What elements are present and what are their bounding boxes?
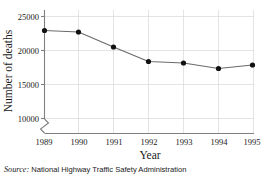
- source-label: Source:: [4, 165, 29, 174]
- x-tick-label-1992: 1992: [141, 137, 158, 147]
- y-axis-title: Number of deaths: [2, 29, 14, 112]
- data-point-1995: [250, 62, 255, 67]
- x-tick-label-1995: 1995: [244, 137, 261, 147]
- y-tick-label-20000: 20000: [18, 46, 39, 56]
- line-chart-plot: 25000 20000 15000 10000 1989 1990 1991 1…: [0, 0, 261, 181]
- x-tick-labels: 1989 1990 1991 1992 1993 1994 1995: [36, 137, 261, 147]
- data-point-1990: [76, 29, 81, 34]
- source-value: National Highway Traffic Safety Administ…: [31, 165, 186, 174]
- x-tick-label-1994: 1994: [211, 137, 229, 147]
- plot-background: [44, 10, 254, 133]
- y-tick-label-25000: 25000: [18, 12, 39, 22]
- x-tick-label-1993: 1993: [176, 137, 193, 147]
- data-point-1993: [181, 60, 186, 65]
- y-tick-label-15000: 15000: [18, 80, 39, 90]
- data-point-1991: [111, 44, 116, 49]
- data-point-1989: [42, 28, 47, 33]
- data-point-1994: [216, 66, 221, 71]
- x-tick-label-1991: 1991: [106, 137, 123, 147]
- data-point-1992: [146, 59, 151, 64]
- x-axis-title: Year: [139, 149, 160, 161]
- y-tick-labels: 25000 20000 15000 10000: [18, 12, 39, 124]
- chart-figure: 25000 20000 15000 10000 1989 1990 1991 1…: [0, 0, 261, 181]
- x-tick-label-1989: 1989: [36, 137, 53, 147]
- y-tick-label-10000: 10000: [18, 114, 39, 124]
- source-caption: Source: National Highway Traffic Safety …: [4, 166, 259, 174]
- x-tick-label-1990: 1990: [71, 137, 88, 147]
